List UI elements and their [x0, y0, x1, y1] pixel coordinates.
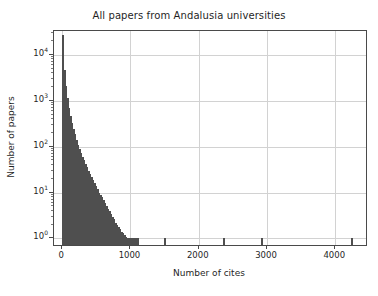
- gridline-horizontal: [54, 55, 366, 56]
- y-tick-mark-minor: [51, 199, 53, 200]
- y-tick-mark-minor: [51, 110, 53, 111]
- y-tick-mark-minor: [51, 118, 53, 119]
- y-tick-mark: [49, 54, 53, 55]
- y-tick-mark-minor: [51, 61, 53, 62]
- x-tick-mark: [266, 245, 267, 249]
- gridline-vertical: [130, 31, 131, 245]
- y-tick-mark: [49, 146, 53, 147]
- x-tick-label: 2000: [173, 251, 223, 260]
- y-tick-mark-minor: [51, 178, 53, 179]
- y-tick-label: 102: [0, 141, 52, 150]
- y-tick-mark-minor: [51, 164, 53, 165]
- plot-area: [54, 31, 366, 245]
- y-tick-mark-minor: [51, 114, 53, 115]
- y-tick-mark-minor: [51, 150, 53, 151]
- histogram-bar: [351, 238, 353, 245]
- histogram-bar: [223, 238, 225, 245]
- y-tick-mark-minor: [51, 156, 53, 157]
- y-tick-mark: [49, 100, 53, 101]
- gridline-vertical: [335, 31, 336, 245]
- chart-title: All papers from Andalusia universities: [0, 10, 378, 21]
- x-tick-mark: [334, 245, 335, 249]
- x-tick-label: 1000: [104, 251, 154, 260]
- y-tick-mark-minor: [51, 224, 53, 225]
- y-axis-label-container: Number of papers: [4, 30, 18, 244]
- x-tick-label: 4000: [309, 251, 359, 260]
- histogram-bar: [164, 238, 166, 245]
- y-tick-mark-minor: [51, 153, 53, 154]
- y-tick-mark-minor: [51, 40, 53, 41]
- y-tick-mark-minor: [51, 86, 53, 87]
- y-tick-mark-minor: [51, 159, 53, 160]
- y-tick-mark-minor: [51, 68, 53, 69]
- gridline-horizontal: [54, 101, 366, 102]
- y-tick-mark-minor: [51, 148, 53, 149]
- y-tick-mark-minor: [51, 196, 53, 197]
- chart-figure: All papers from Andalusia universities N…: [0, 0, 378, 296]
- gridline-vertical: [199, 31, 200, 245]
- y-tick-mark: [49, 192, 53, 193]
- y-tick-mark-minor: [51, 170, 53, 171]
- y-axis-label: Number of papers: [6, 96, 16, 177]
- y-tick-label: 104: [0, 49, 52, 58]
- x-tick-mark: [61, 245, 62, 249]
- y-tick-mark-minor: [51, 102, 53, 103]
- y-tick-mark-minor: [51, 210, 53, 211]
- y-tick-mark-minor: [51, 78, 53, 79]
- y-tick-label: 101: [0, 187, 52, 196]
- x-tick-label: 3000: [241, 251, 291, 260]
- gridline-vertical: [267, 31, 268, 245]
- histogram-bar: [261, 238, 263, 245]
- y-tick-mark-minor: [51, 58, 53, 59]
- y-tick-mark-minor: [51, 56, 53, 57]
- y-tick-mark-minor: [51, 104, 53, 105]
- plot-frame: [53, 30, 367, 246]
- y-tick-label: 100: [0, 232, 52, 241]
- x-tick-mark: [198, 245, 199, 249]
- histogram-bar: [137, 238, 139, 245]
- y-tick-mark-minor: [51, 124, 53, 125]
- x-axis-label: Number of cites: [53, 268, 365, 278]
- y-tick-label: 103: [0, 95, 52, 104]
- y-tick-mark-minor: [51, 107, 53, 108]
- x-tick-mark: [129, 245, 130, 249]
- x-tick-label: 0: [36, 251, 86, 260]
- y-tick-mark-minor: [51, 132, 53, 133]
- y-tick-mark-minor: [51, 72, 53, 73]
- gridline-horizontal: [54, 147, 366, 148]
- y-tick-mark-minor: [51, 205, 53, 206]
- y-tick-mark-minor: [51, 202, 53, 203]
- y-tick-mark-minor: [51, 64, 53, 65]
- y-tick-mark-minor: [51, 194, 53, 195]
- y-tick-mark: [49, 237, 53, 238]
- y-tick-mark-minor: [51, 216, 53, 217]
- y-tick-mark-minor: [51, 32, 53, 33]
